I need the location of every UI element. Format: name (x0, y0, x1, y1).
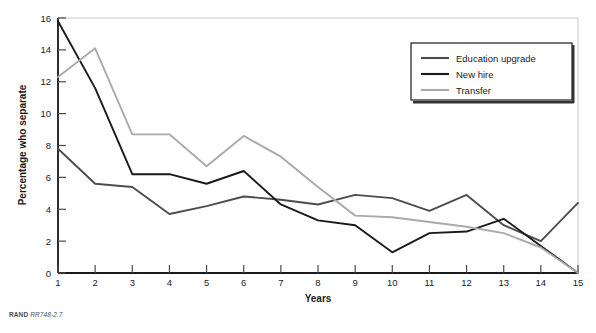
x-tick-label: 4 (167, 277, 172, 288)
x-tick-label: 6 (241, 277, 246, 288)
legend-label-transfer: Transfer (456, 85, 491, 96)
source-note-brand: RAND (9, 311, 28, 318)
y-tick-label: 12 (40, 76, 51, 87)
y-tick-label: 6 (46, 172, 51, 183)
x-tick-label: 10 (387, 277, 398, 288)
x-tick-label: 2 (92, 277, 97, 288)
y-axis-title: Percentage who separate (17, 84, 28, 205)
y-tick-label: 2 (46, 236, 51, 247)
x-tick-label: 11 (424, 277, 434, 288)
y-tick-label: 14 (40, 44, 51, 55)
x-tick-label: 3 (130, 277, 135, 288)
y-axis-ticks (58, 18, 66, 273)
figure-container: 0246810121416 123456789101112131415 Perc… (0, 0, 596, 333)
source-note: RANDRR748-2.7 (9, 311, 63, 318)
x-axis-ticks (58, 265, 578, 273)
y-tick-label: 10 (40, 108, 51, 119)
x-tick-label: 9 (352, 277, 357, 288)
x-tick-label: 14 (536, 277, 547, 288)
x-tick-label: 1 (55, 277, 60, 288)
x-tick-label: 7 (278, 277, 283, 288)
line-chart: 0246810121416 123456789101112131415 Perc… (0, 0, 596, 333)
series-line-education-upgrade (58, 149, 578, 241)
legend-label-education-upgrade: Education upgrade (456, 53, 536, 64)
chart-legend: Education upgradeNew hireTransfer (411, 43, 575, 104)
legend-shadow-bottom (413, 101, 574, 104)
legend-label-new-hire: New hire (456, 69, 494, 80)
x-tick-label: 8 (315, 277, 320, 288)
y-tick-label: 8 (46, 140, 51, 151)
y-tick-label: 0 (46, 268, 51, 279)
x-axis-title: Years (305, 293, 332, 304)
x-tick-label: 15 (573, 277, 584, 288)
x-axis-tick-labels: 123456789101112131415 (55, 277, 583, 288)
y-axis-tick-labels: 0246810121416 (40, 13, 51, 279)
x-tick-label: 13 (498, 277, 509, 288)
source-note-reference: RR748-2.7 (28, 311, 62, 318)
x-tick-label: 5 (204, 277, 209, 288)
y-tick-label: 4 (46, 204, 51, 215)
x-tick-label: 12 (461, 277, 472, 288)
y-tick-label: 16 (40, 13, 51, 24)
legend-shadow-right (572, 45, 575, 103)
